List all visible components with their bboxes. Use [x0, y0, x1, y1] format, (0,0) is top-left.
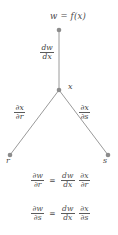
fraction-denominator: dx — [40, 52, 54, 61]
fraction-denominator: dx — [61, 213, 75, 222]
fraction-denominator: ∂r — [14, 112, 25, 121]
edge-x-s — [59, 90, 108, 155]
node-label-x: x — [68, 83, 73, 91]
fraction-dw-dx: dw dx — [61, 172, 75, 189]
fraction-numerator: dw — [61, 172, 75, 180]
equation-dw-ds: ∂w ∂s = dw dx ∂x ∂s — [0, 197, 118, 230]
fraction-numerator: ∂w — [31, 205, 44, 213]
fraction-denominator: ∂s — [79, 213, 90, 222]
edge-label-dw-dx: dw dx — [40, 44, 54, 61]
fraction-numerator: ∂x — [14, 104, 25, 112]
equation-block: ∂w ∂r = dw dx ∂x ∂r ∂w ∂s = dw dx — [0, 164, 118, 230]
equals-sign: = — [44, 177, 60, 185]
fraction-dw-dx: dw dx — [40, 44, 54, 61]
fraction-denominator: dx — [61, 180, 75, 189]
fraction-numerator: ∂w — [31, 172, 44, 180]
fraction-dw-dx: dw dx — [61, 205, 75, 222]
node-label-w: w = f(x) — [50, 12, 86, 21]
fraction-dw-ds: ∂w ∂s — [31, 205, 44, 222]
fraction-dx-dr: ∂x ∂r — [79, 172, 90, 189]
node-x-dot — [57, 88, 62, 93]
edge-label-dx-ds: ∂x ∂s — [79, 104, 90, 121]
fraction-dx-ds: ∂x ∂s — [79, 104, 90, 121]
equation-dw-dr: ∂w ∂r = dw dx ∂x ∂r — [0, 164, 118, 197]
fraction-numerator: ∂x — [79, 205, 90, 213]
fraction-denominator: ∂s — [31, 213, 44, 222]
fraction-denominator: ∂s — [79, 112, 90, 121]
fraction-numerator: dw — [40, 44, 54, 52]
node-w-dot — [57, 28, 62, 33]
fraction-denominator: ∂r — [31, 180, 44, 189]
chain-rule-diagram: w = f(x) x r s dw dx ∂x ∂r ∂x ∂s ∂w ∂r =… — [0, 0, 118, 235]
fraction-dw-dr: ∂w ∂r — [31, 172, 44, 189]
fraction-numerator: dw — [61, 205, 75, 213]
edge-x-r — [10, 90, 59, 155]
fraction-numerator: ∂x — [79, 104, 90, 112]
fraction-numerator: ∂x — [79, 172, 90, 180]
fraction-denominator: ∂r — [79, 180, 90, 189]
equals-sign: = — [44, 210, 60, 218]
tree-graph — [0, 0, 118, 165]
fraction-dx-ds: ∂x ∂s — [79, 205, 90, 222]
fraction-dx-dr: ∂x ∂r — [14, 104, 25, 121]
edge-label-dx-dr: ∂x ∂r — [14, 104, 25, 121]
